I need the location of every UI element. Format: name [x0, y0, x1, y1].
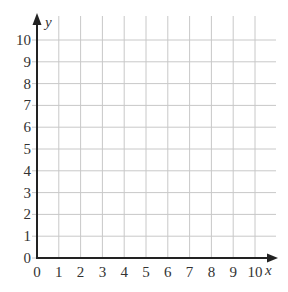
y-tick-label: 1: [24, 228, 32, 244]
y-axis-arrow-icon: [33, 13, 42, 25]
grid-lines: [37, 16, 276, 258]
x-tick-label: 2: [77, 264, 85, 280]
x-tick-labels: 012345678910: [33, 264, 262, 280]
y-tick-label: 6: [24, 119, 32, 135]
axes: [33, 13, 279, 263]
x-tick-label: 8: [208, 264, 216, 280]
y-tick-label: 0: [24, 250, 32, 266]
y-tick-label: 9: [24, 54, 32, 70]
x-tick-label: 9: [229, 264, 237, 280]
x-tick-label: 1: [55, 264, 63, 280]
y-tick-label: 3: [24, 185, 32, 201]
x-tick-label: 7: [186, 264, 194, 280]
y-tick-label: 5: [24, 141, 32, 157]
y-tick-label: 7: [24, 97, 32, 113]
y-tick-label: 4: [24, 163, 32, 179]
y-tick-label: 8: [24, 76, 32, 92]
y-tick-labels: 012345678910: [16, 32, 32, 266]
x-axis-label: x: [264, 262, 272, 278]
coordinate-grid-chart: 012345678910 012345678910 x y: [0, 0, 288, 292]
y-tick-label: 10: [16, 32, 31, 48]
x-tick-label: 10: [248, 264, 263, 280]
y-axis-label: y: [43, 14, 52, 30]
x-tick-label: 5: [142, 264, 150, 280]
x-tick-label: 6: [164, 264, 172, 280]
x-tick-label: 4: [120, 264, 128, 280]
x-tick-label: 0: [33, 264, 41, 280]
x-tick-label: 3: [99, 264, 107, 280]
y-tick-label: 2: [24, 206, 32, 222]
